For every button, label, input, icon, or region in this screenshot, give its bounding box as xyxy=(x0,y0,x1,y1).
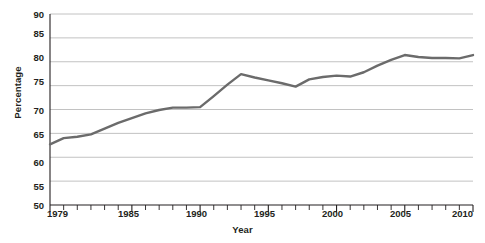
x-axis-minor-ticks xyxy=(50,205,473,212)
plot-area xyxy=(0,0,485,243)
gridlines xyxy=(50,14,473,205)
line-chart: Percentage Year 90 85 80 75 70 65 60 55 … xyxy=(0,0,485,243)
data-series-line xyxy=(50,55,473,144)
